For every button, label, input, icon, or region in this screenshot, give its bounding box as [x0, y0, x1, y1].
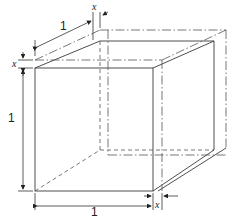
- label-left-edge: 1: [8, 111, 15, 125]
- label-top-edge: 1: [60, 19, 67, 33]
- dimension-bottom-offset: x: [144, 193, 178, 210]
- label-left-offset: x: [11, 58, 17, 69]
- dimension-left: 1: [8, 72, 33, 191]
- inner-hidden-diagonal-edge: [35, 150, 100, 191]
- dimension-top-offset: x: [91, 1, 108, 28]
- outer-top-right-edge: [162, 30, 226, 60]
- inner-cube-front-face: [35, 68, 153, 191]
- dimension-top: 1: [35, 12, 93, 56]
- dimension-left-offset: x: [11, 52, 33, 76]
- outer-bottom-right-edge: [158, 148, 226, 191]
- dimension-arrow: [103, 12, 108, 15]
- label-bottom-offset: x: [154, 199, 160, 210]
- cube-expansion-diagram: 1 x x 1 1 x: [0, 0, 238, 216]
- outer-cube: [35, 30, 226, 191]
- label-bottom-edge: 1: [91, 205, 98, 216]
- inner-cube: [35, 41, 214, 191]
- dimension-bottom: 1: [35, 193, 153, 216]
- label-top-offset: x: [91, 1, 97, 12]
